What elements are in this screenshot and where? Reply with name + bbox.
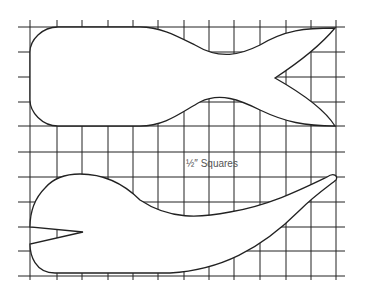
whale-pattern-diagram — [0, 0, 366, 297]
grid-scale-label: ½″ Squares — [186, 158, 238, 169]
whale-bottom-shape — [30, 174, 337, 273]
